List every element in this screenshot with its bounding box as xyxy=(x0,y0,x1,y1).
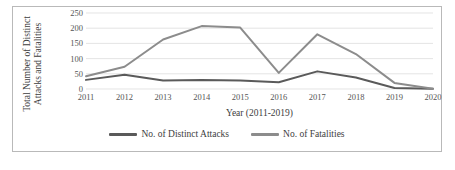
x-axis-tick-label: 2012 xyxy=(116,92,133,102)
chart-legend: No. of Distinct AttacksNo. of Fatalities xyxy=(13,129,441,139)
series-line xyxy=(86,26,433,89)
x-axis-tick-label: 2014 xyxy=(193,92,210,102)
x-axis-tick-label: 2018 xyxy=(347,92,364,102)
plot-area xyxy=(86,13,433,89)
y-axis-tick-label: 200 xyxy=(59,23,83,33)
x-axis-title: Year (2011-2019) xyxy=(86,108,433,118)
y-axis-tick-label: 150 xyxy=(59,38,83,48)
line-chart-svg xyxy=(86,13,433,89)
legend-item[interactable]: No. of Fatalities xyxy=(251,129,344,139)
legend-line-swatch xyxy=(109,133,137,136)
legend-label: No. of Fatalities xyxy=(283,129,344,139)
x-axis-tick-label: 2016 xyxy=(270,92,287,102)
plot-wrapper: 250200150100500 201120122013201420152016… xyxy=(59,13,433,133)
y-axis-tick-label: 250 xyxy=(59,8,83,18)
x-axis-tick-label: 2020 xyxy=(425,92,442,102)
y-axis-title: Total Number of Distinct Attacks and Fat… xyxy=(16,6,50,122)
y-axis-title-line-1: Total Number of Distinct xyxy=(22,16,33,112)
y-axis-tick-labels: 250200150100500 xyxy=(59,13,83,89)
x-axis-tick-label: 2011 xyxy=(78,92,95,102)
legend-item[interactable]: No. of Distinct Attacks xyxy=(109,129,229,139)
y-axis-tick-label: 100 xyxy=(59,54,83,64)
chart-container: Total Number of Distinct Attacks and Fat… xyxy=(12,6,442,152)
x-axis-tick-label: 2019 xyxy=(386,92,403,102)
y-axis-title-line-2: Attacks and Fatalities xyxy=(33,23,44,105)
x-axis-tick-label: 2015 xyxy=(232,92,249,102)
y-axis-tick-label: 50 xyxy=(59,69,83,79)
series-lines xyxy=(86,26,433,89)
x-axis-tick-labels: 2011201220132014201520162017201820192020 xyxy=(86,92,433,105)
legend-line-swatch xyxy=(251,133,279,136)
legend-label: No. of Distinct Attacks xyxy=(141,129,229,139)
x-axis-tick-label: 2013 xyxy=(155,92,172,102)
x-axis-tick-label: 2017 xyxy=(309,92,326,102)
